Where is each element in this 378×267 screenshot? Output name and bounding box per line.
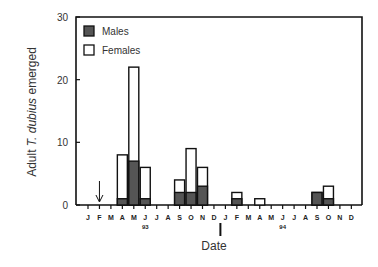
month-label: D — [349, 214, 354, 221]
emergence-chart: 0102030 JFMAMJJASONDJFMAMJJASOND9394 Dat… — [0, 0, 378, 267]
y-tick-label: 30 — [57, 12, 69, 23]
bar-males — [129, 161, 139, 205]
bar-males — [232, 199, 242, 205]
month-label: O — [326, 214, 332, 221]
month-label: J — [143, 214, 147, 221]
month-label: D — [211, 214, 216, 221]
legend-label-males: Males — [102, 26, 129, 37]
month-label: A — [257, 214, 262, 221]
x-axis-title: Date — [201, 239, 227, 253]
bar-males — [117, 199, 127, 205]
month-label: A — [166, 214, 171, 221]
y-axis-title: Adult T. dubius emerged — [25, 47, 39, 177]
month-label: M — [131, 214, 137, 221]
bar-females — [117, 155, 127, 205]
month-label: J — [292, 214, 296, 221]
bar-males — [186, 192, 196, 205]
bar-males — [312, 192, 322, 205]
legend-swatch-females — [84, 45, 94, 55]
legend: MalesFemales — [84, 26, 140, 56]
month-label: S — [177, 214, 182, 221]
month-label: M — [245, 214, 251, 221]
month-label: J — [155, 214, 159, 221]
month-label: A — [303, 214, 308, 221]
bar-males — [198, 186, 208, 205]
bar-males — [175, 192, 185, 205]
month-label: A — [120, 214, 125, 221]
legend-swatch-males — [84, 26, 94, 36]
month-label: J — [86, 214, 90, 221]
month-label: S — [315, 214, 320, 221]
month-label: F — [235, 214, 240, 221]
month-label: M — [268, 214, 274, 221]
legend-label-females: Females — [102, 45, 140, 56]
month-label: N — [337, 214, 342, 221]
month-label: J — [281, 214, 285, 221]
year-label: 94 — [279, 224, 286, 230]
month-label: F — [97, 214, 102, 221]
plot-area: 0102030 — [57, 12, 362, 211]
y-tick-label: 0 — [62, 200, 68, 211]
month-label: J — [223, 214, 227, 221]
y-tick-label: 10 — [57, 137, 69, 148]
bar-males — [140, 199, 150, 205]
month-label: N — [200, 214, 205, 221]
month-label: O — [188, 214, 194, 221]
bar-females — [255, 199, 265, 205]
year-label: 93 — [142, 224, 149, 230]
bar-males — [323, 199, 333, 205]
bars — [117, 67, 333, 205]
y-tick-label: 20 — [57, 75, 69, 86]
month-label: M — [108, 214, 114, 221]
